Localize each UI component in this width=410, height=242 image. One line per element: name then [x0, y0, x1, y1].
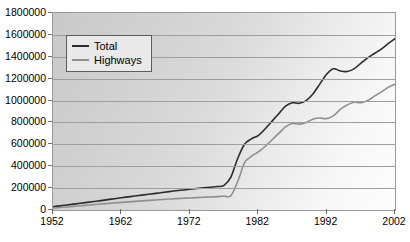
y-axis-tick-label: 1600000 [0, 29, 46, 40]
chart-title [0, 0, 404, 3]
gridline [53, 188, 395, 189]
x-axis-tick-label: 1982 [237, 216, 277, 227]
y-axis-tick-label: 600000 [0, 138, 46, 149]
x-axis-tick-mark [120, 209, 121, 214]
x-axis-tick-mark [326, 209, 327, 214]
legend-line-swatch [72, 45, 89, 47]
x-axis-tick-mark [189, 209, 190, 214]
x-axis-tick-label: 1972 [169, 216, 209, 227]
y-axis-tick-label: 400000 [0, 160, 46, 171]
y-axis-tick-label: 1000000 [0, 95, 46, 106]
x-axis-tick-label: 1962 [100, 216, 140, 227]
legend-item-highways[interactable]: Highways [72, 53, 142, 67]
series-line-highways [53, 84, 395, 208]
x-axis-labels: 195219621972198219922002 [0, 216, 404, 234]
y-axis-tick-label: 0 [0, 204, 46, 215]
y-axis-tick-label: 200000 [0, 182, 46, 193]
x-axis-tick-mark [52, 209, 53, 214]
y-axis-tick-label: 1200000 [0, 73, 46, 84]
x-axis-tick-mark [394, 209, 395, 214]
gridline [53, 79, 395, 80]
y-axis-tick-label: 800000 [0, 116, 46, 127]
legend-line-swatch [72, 59, 89, 61]
gridline [53, 166, 395, 167]
legend-item-total[interactable]: Total [72, 39, 142, 53]
gridline [53, 122, 395, 123]
gridline [53, 101, 395, 102]
legend-item-label: Highways [94, 55, 142, 66]
x-axis-tick-mark [257, 209, 258, 214]
gridline [53, 144, 395, 145]
y-axis-tick-label: 1400000 [0, 51, 46, 62]
x-axis-tick-label: 2002 [374, 216, 410, 227]
legend-item-label: Total [94, 41, 117, 52]
x-axis-tick-label: 1992 [306, 216, 346, 227]
chart-legend: TotalHighways [66, 35, 152, 72]
x-axis-tick-label: 1952 [32, 216, 72, 227]
y-axis-tick-label: 1800000 [0, 7, 46, 18]
y-axis-labels: 0200000400000600000800000100000012000001… [0, 0, 50, 242]
